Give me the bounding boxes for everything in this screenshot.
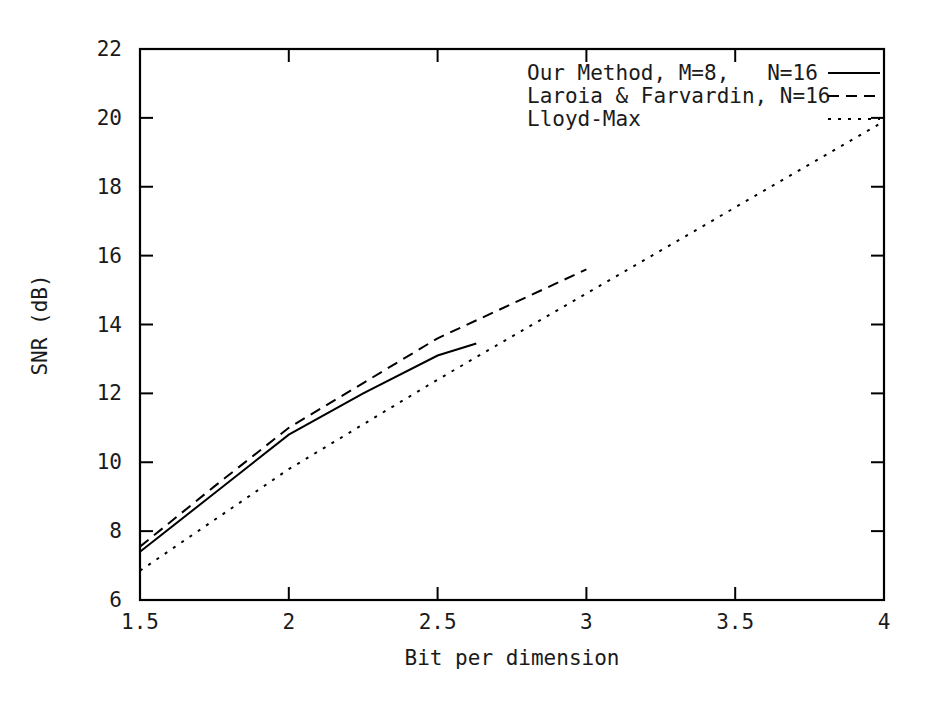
y-tick-label: 8 <box>109 519 122 543</box>
y-tick-label: 18 <box>97 175 122 199</box>
legend-label-2: Lloyd-Max <box>527 107 641 131</box>
y-axis-ticks <box>140 49 884 600</box>
y-tick-label: 6 <box>109 588 122 612</box>
y-tick-label: 14 <box>97 313 122 337</box>
x-tick-label: 1.5 <box>121 610 159 634</box>
y-tick-label: 10 <box>97 450 122 474</box>
x-axis-tick-labels: 1.522.533.54 <box>121 610 890 634</box>
chart-legend: Our Method, M=8, N=16Laroia & Farvardin,… <box>527 61 880 131</box>
x-axis-ticks <box>140 49 884 600</box>
x-tick-label: 3 <box>580 610 593 634</box>
y-tick-label: 22 <box>97 37 122 61</box>
y-tick-label: 20 <box>97 106 122 130</box>
y-axis-tick-labels: 6810121416182022 <box>97 37 122 612</box>
x-tick-label: 3.5 <box>716 610 754 634</box>
legend-label-1: Laroia & Farvardin, N=16 <box>527 84 830 108</box>
chart-figure: 6810121416182022 1.522.533.54 Our Method… <box>0 0 931 707</box>
x-axis-title: Bit per dimension <box>405 646 620 670</box>
x-tick-label: 2.5 <box>419 610 457 634</box>
x-tick-label: 4 <box>878 610 891 634</box>
data-series-group <box>140 121 884 570</box>
legend-label-0: Our Method, M=8, N=16 <box>527 61 818 85</box>
series-line-0 <box>140 343 476 551</box>
x-tick-label: 2 <box>282 610 295 634</box>
plot-frame <box>140 49 884 600</box>
y-axis-title: SNR (dB) <box>28 274 52 375</box>
snr-line-chart: 6810121416182022 1.522.533.54 Our Method… <box>0 0 931 707</box>
series-line-2 <box>140 121 884 570</box>
series-line-1 <box>140 269 586 546</box>
y-tick-label: 12 <box>97 381 122 405</box>
y-tick-label: 16 <box>97 244 122 268</box>
